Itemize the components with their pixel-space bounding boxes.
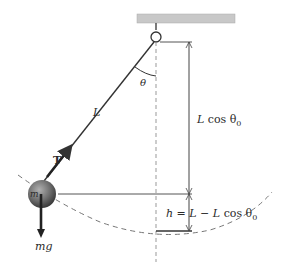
angle-label: θ (140, 77, 146, 88)
hook-icon (151, 23, 161, 42)
tension-label: T (53, 154, 62, 167)
L-cos-theta-label: L cos θ0 (196, 113, 241, 128)
ceiling (137, 14, 235, 23)
weight-label: mg (35, 240, 52, 253)
angle-arc (135, 67, 156, 76)
length-label: L (92, 106, 100, 119)
mass-label: m (30, 189, 39, 199)
swing-arc (18, 175, 272, 235)
pendulum-diagram: θ L T m mg L cos θ0 h = L − L cos θ0 (0, 0, 287, 270)
h-formula-label: h = L − L cos θ0 (166, 207, 257, 222)
